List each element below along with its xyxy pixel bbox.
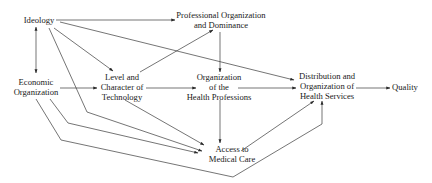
node-quality: Quality: [392, 82, 418, 92]
node-healthprof-line-3: Health Professions: [187, 92, 252, 102]
node-technology-line-2: Character of: [101, 82, 144, 92]
node-access: Access to Medical Care: [209, 144, 256, 164]
edge-economic-distribution: [36, 99, 322, 177]
edge-technology-professional: [140, 30, 213, 72]
node-distribution-line-3: Health Services: [299, 91, 355, 101]
node-professional-line-1: Professional Organization: [176, 10, 265, 20]
node-ideology: Ideology: [24, 15, 55, 25]
node-technology: Level and Character of Technology: [101, 72, 144, 102]
node-healthprof-line-1: Organization: [187, 72, 252, 82]
node-health-professions: Organization of the Health Professions: [187, 72, 252, 102]
edge-ideology-technology: [54, 28, 113, 71]
node-healthprof-line-2: of the: [187, 82, 252, 92]
node-access-line-1: Access to: [209, 144, 256, 154]
node-distribution-line-2: Organization of: [299, 81, 355, 91]
node-technology-line-3: Technology: [101, 92, 144, 102]
node-professional-line-2: and Dominance: [176, 20, 265, 30]
diagram-canvas: Ideology Professional Organization and D…: [0, 0, 432, 183]
node-economic-line-2: Organization: [14, 87, 59, 97]
node-ideology-line: Ideology: [24, 15, 55, 25]
node-economic-organization: Economic Organization: [14, 77, 59, 97]
node-economic-line-1: Economic: [14, 77, 59, 87]
node-technology-line-1: Level and: [101, 72, 144, 82]
node-distribution-line-1: Distribution and: [299, 71, 355, 81]
node-distribution: Distribution and Organization of Health …: [299, 71, 355, 101]
node-access-line-2: Medical Care: [209, 154, 256, 164]
node-professional-organization: Professional Organization and Dominance: [176, 10, 265, 30]
node-quality-line: Quality: [392, 82, 418, 92]
edge-economic-access: [50, 99, 198, 153]
